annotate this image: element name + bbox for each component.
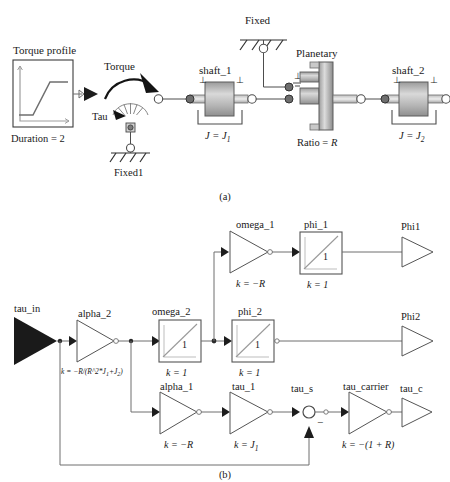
shaft-2-flange-left-icon: ⊥ <box>393 75 401 85</box>
omega-1-body <box>230 231 268 273</box>
port-phi2-out <box>275 339 279 343</box>
port-taucarrier-out <box>387 410 392 415</box>
block-torque-profile[interactable]: Torque profile Duration = 2 <box>11 44 98 144</box>
wire-fixed-to-planetary <box>264 53 286 87</box>
tau-s-minus-sign: − <box>317 416 323 428</box>
tau-1-gain: k = J1 <box>234 439 258 453</box>
port-shaft1-left <box>186 95 194 103</box>
caption-b: (b) <box>219 469 232 481</box>
block-phi2-output[interactable]: Phi2 <box>401 311 433 356</box>
fixed1-label: Fixed1 <box>114 167 143 178</box>
port-shaft2-right <box>442 95 450 103</box>
block-tau-in[interactable]: tau_in <box>14 303 57 365</box>
tau-carrier-label: tau_carrier <box>343 381 389 392</box>
tau-in-port-icon <box>14 317 57 365</box>
shaft-2-inertia-param: J = J2 <box>399 130 425 144</box>
port-shaft2-left <box>381 95 389 103</box>
tau-c-out-port-icon <box>402 398 432 427</box>
phi1-out-label: Phi1 <box>401 221 420 232</box>
phi-1-gain: k = 1 <box>307 279 328 290</box>
torque-profile-label: Torque profile <box>13 44 76 56</box>
tau-carrier-gain: k = −(1 + R) <box>342 439 395 451</box>
input-arrow-taus-plus <box>292 407 300 417</box>
block-tau-carrier[interactable]: tau_carrier k = −(1 + R) <box>342 381 395 451</box>
planetary-ring-gear <box>319 62 333 130</box>
planetary-output-rod <box>333 95 357 103</box>
input-arrow-alpha1 <box>152 407 160 417</box>
alpha-1-label: alpha_1 <box>160 381 193 392</box>
port-planetary-left <box>285 95 293 103</box>
shaft-1-flange-left-icon: ⊥ <box>199 75 207 85</box>
block-phi-2[interactable]: phi_2 1 k = 1 <box>232 306 274 378</box>
shaft-1-body <box>205 82 234 116</box>
planetary-carrier-bar-bottom <box>310 124 319 130</box>
phi1-out-port-icon <box>402 237 433 267</box>
port-omega1-out <box>268 250 273 255</box>
planetary-ratio-param: Ratio = R <box>297 137 338 148</box>
figure-canvas: Torque profile Duration = 2 Torque <box>0 0 450 482</box>
figure-container: Torque profile Duration = 2 Torque <box>0 0 450 482</box>
block-planetary[interactable]: Planetary ⊥ Ratio = R <box>285 47 365 148</box>
port-planetary-right <box>357 95 365 103</box>
flange-dot-torque <box>128 125 133 130</box>
input-arrow-phi1 <box>292 247 300 257</box>
port-fixed-bottom <box>259 44 267 52</box>
phi-2-glyph: 1 <box>255 339 260 350</box>
block-alpha-1[interactable]: alpha_1 k = −R <box>160 381 201 450</box>
block-tau-1[interactable]: tau_1 k = J1 <box>230 381 272 453</box>
phi-1-label: phi_1 <box>304 219 328 230</box>
alpha-2-gain-expression: k = −R/(R^2*J1+J2) <box>61 367 123 377</box>
input-arrow-taus-minus <box>304 426 314 438</box>
input-arrow-alpha2 <box>69 336 77 346</box>
wire-branch-to-omega1 <box>214 252 224 341</box>
torque-arrow-head <box>140 73 159 93</box>
phi-1-glyph: 1 <box>323 251 328 262</box>
planetary-carrier-ticks <box>293 83 301 86</box>
diagram-a: Torque profile Duration = 2 Torque <box>11 14 450 203</box>
block-torque[interactable]: Torque Tau <box>92 60 163 152</box>
ground-icon <box>110 153 150 162</box>
tau-1-body <box>230 392 268 434</box>
shaft-2-body <box>399 82 428 116</box>
block-omega-2[interactable]: omega_2 1 k = 1 <box>152 306 201 378</box>
phi-2-label: phi_2 <box>238 306 262 317</box>
signal-arrow-to-torque <box>84 87 98 101</box>
planetary-sun-stub-upper <box>300 72 319 82</box>
block-fixed1[interactable]: Fixed1 <box>110 152 150 178</box>
tau-carrier-body <box>349 392 387 434</box>
phi2-out-label: Phi2 <box>401 311 420 322</box>
alpha-2-label: alpha_2 <box>78 308 111 319</box>
block-phi-1[interactable]: phi_1 1 k = 1 <box>300 219 342 290</box>
shaft-1-inertia-param: J = J1 <box>205 130 230 144</box>
torque-profile-duration: Duration = 2 <box>11 133 65 144</box>
omega-2-label: omega_2 <box>152 306 191 317</box>
tau-in-label: tau_in <box>14 303 41 314</box>
port-torque-out <box>154 95 162 103</box>
planetary-sun-stub-lower <box>300 88 319 104</box>
alpha-2-body <box>77 320 114 362</box>
block-omega-1[interactable]: omega_1 k = −R <box>230 219 275 289</box>
port-fixed1-top <box>127 144 135 152</box>
omega-2-gain: k = 1 <box>166 367 187 378</box>
block-shaft-1[interactable]: shaft_1 ⊥ ⊥ J = J1 <box>186 64 256 144</box>
shaft-2-flange-right-icon: ⊥ <box>430 75 438 85</box>
diagram-b: tau_in alpha_2 k = −R/(R^2*J1+J2) omega_… <box>14 219 433 481</box>
input-arrow-taucarrier <box>341 407 349 417</box>
block-shaft-2[interactable]: shaft_2 ⊥ ⊥ J = J2 <box>381 64 450 144</box>
block-fixed[interactable]: Fixed <box>240 14 293 91</box>
tau-s-label: tau_s <box>291 383 313 394</box>
port-alpha2-out <box>114 339 119 344</box>
port-planetary-top-in <box>285 83 293 91</box>
tau-s-sum-junction-icon <box>303 406 315 418</box>
phi2-out-port-icon <box>402 326 433 356</box>
alpha-1-gain: k = −R <box>164 439 193 450</box>
alpha-1-body <box>160 392 197 434</box>
block-phi1-output[interactable]: Phi1 <box>401 221 433 267</box>
port-shaft1-right <box>248 95 256 103</box>
shaft-1-flange-right-icon: ⊥ <box>236 75 244 85</box>
planetary-label: Planetary <box>296 47 338 59</box>
input-arrow-tau1 <box>222 407 230 417</box>
torque-label: Torque <box>104 60 135 72</box>
block-tau-c-output[interactable]: tau_c <box>400 383 432 427</box>
omega-2-glyph: 1 <box>182 339 187 350</box>
